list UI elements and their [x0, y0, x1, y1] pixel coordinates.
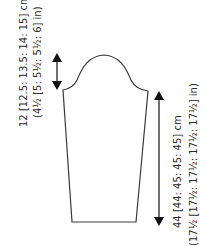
cap-height-label-in: (4½ [5: 5½: 5½: 6] in) [32, 6, 44, 118]
cap-height-label-cm: 12 [12.5: 13.5: 14: 15] cm [18, 0, 30, 127]
sleeve-length-label-cm: 44 [44: 45: 45: 45] cm [172, 115, 184, 228]
sleeve-length-arrow [154, 91, 164, 226]
sleeve-length-label-in: (17½ [17½: 17½: 17½: 17½] in) [188, 83, 200, 246]
sleeve-outline [63, 55, 148, 222]
cap-height-arrow [52, 53, 62, 90]
